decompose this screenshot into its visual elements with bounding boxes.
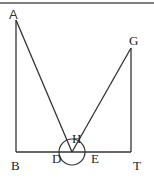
- geometry-diagram: A G H B D E T: [0, 0, 154, 178]
- label-d: D: [52, 151, 61, 166]
- label-h: H: [72, 131, 81, 146]
- label-a: A: [9, 7, 18, 22]
- label-b: B: [11, 158, 20, 173]
- label-t: T: [133, 158, 141, 173]
- segment-ad: [16, 20, 72, 152]
- label-e: E: [91, 151, 99, 166]
- label-g: G: [129, 33, 138, 48]
